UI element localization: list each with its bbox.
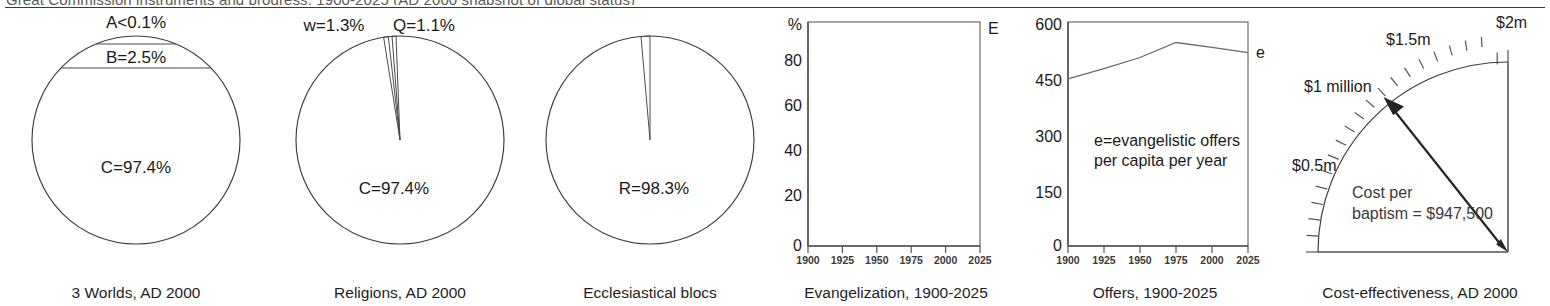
slice-label-c: C=97.4% — [101, 158, 171, 177]
gauge-annotation-line1: Cost per — [1352, 184, 1413, 201]
y-tick-label-300: 300 — [1035, 128, 1062, 145]
y-tick-label-600: 600 — [1035, 16, 1062, 33]
x-tick-label-1900: 1900 — [1056, 254, 1080, 266]
y-tick-label-0: 0 — [793, 237, 802, 254]
legend-note-line1: e=evangelistic offers — [1094, 132, 1240, 149]
x-tick-label-2000: 2000 — [934, 254, 958, 266]
y-axis-unit-label: % — [788, 16, 802, 33]
series-label-e: e — [1256, 44, 1265, 61]
gauge-annotation-line2: baptism = $947,500 — [1352, 205, 1493, 222]
y-tick-label-0: 0 — [1053, 237, 1062, 254]
pie-ecclesiastical: R=98.3% — [528, 8, 772, 274]
panel-caption-religions: Religions, AD 2000 — [272, 284, 528, 302]
slice-label-q: Q=1.1% — [393, 16, 455, 35]
panel-religions: w=1.3% Q=1.1% C=97.4% Religions, AD 2000 — [272, 8, 528, 306]
series-label-E: E — [988, 20, 999, 37]
y-tick-label-80: 80 — [784, 52, 802, 69]
gauge-cost-effectiveness: $0.5m $1 million $1.5m $2m Cost per bapt… — [1290, 8, 1550, 274]
panel-caption-evangelization: Evangelization, 1900-2025 — [772, 284, 1020, 302]
x-tick-label-1900: 1900 — [796, 254, 820, 266]
panel-cost-effectiveness: $0.5m $1 million $1.5m $2m Cost per bapt… — [1290, 8, 1550, 306]
slice-label-a: A<0.1% — [106, 13, 166, 32]
slice-label-c: C=97.4% — [359, 179, 429, 198]
legend-note-line2: per capita per year — [1094, 152, 1228, 169]
x-tick-marks — [808, 246, 980, 253]
x-tick-label-1925: 1925 — [831, 254, 855, 266]
x-tick-label-2025: 2025 — [968, 254, 992, 266]
panel-evangelization: % 80 60 40 20 0 E 1900 1925 1950 1975 20… — [772, 8, 1020, 306]
wedge-other — [641, 36, 650, 140]
x-tick-label-1925: 1925 — [1092, 254, 1116, 266]
y-tick-label-450: 450 — [1035, 72, 1062, 89]
panel-caption-ecclesiastical-blocs: Ecclesiastical blocs — [528, 284, 772, 302]
series-line-e — [1068, 43, 1248, 79]
wedge-q — [392, 36, 400, 140]
y-tick-label-60: 60 — [784, 97, 802, 114]
figure-root: Great Commission instruments and progres… — [0, 0, 1550, 306]
slice-label-w: w=1.3% — [303, 16, 365, 35]
x-tick-label-2000: 2000 — [1200, 254, 1224, 266]
panel-caption-offers: Offers, 1900-2025 — [1020, 284, 1290, 302]
panel-offers: 600 450 300 150 0 e e=evangelistic offer… — [1020, 8, 1290, 306]
panel-three-worlds: A<0.1% B=2.5% C=97.4% 3 Worlds, AD 2000 — [0, 8, 272, 306]
x-tick-label-1975: 1975 — [1164, 254, 1188, 266]
slice-label-r: R=98.3% — [619, 179, 689, 198]
x-tick-marks — [1068, 246, 1248, 253]
pie-religions: w=1.3% Q=1.1% C=97.4% — [272, 8, 528, 274]
panel-caption-three-worlds: 3 Worlds, AD 2000 — [0, 284, 272, 302]
chart-evangelization: % 80 60 40 20 0 E 1900 1925 1950 1975 20… — [772, 8, 1020, 274]
plot-area — [808, 22, 980, 246]
panel-ecclesiastical-blocs: R=98.3% Ecclesiastical blocs — [528, 8, 772, 306]
x-tick-label-1950: 1950 — [865, 254, 889, 266]
gauge-label-1-5m: $1.5m — [1386, 31, 1430, 48]
y-tick-label-20: 20 — [784, 187, 802, 204]
gauge-pointer — [1384, 97, 1509, 252]
x-tick-label-2025: 2025 — [1236, 254, 1260, 266]
pie-three-worlds: A<0.1% B=2.5% C=97.4% — [0, 8, 272, 274]
pie-outline — [32, 36, 240, 244]
panel-caption-cost-effectiveness: Cost-effectiveness, AD 2000 — [1290, 284, 1550, 302]
gauge-label-1-million: $1 million — [1304, 78, 1372, 95]
gauge-label-0-5m: $0.5m — [1292, 157, 1336, 174]
x-tick-label-1950: 1950 — [1128, 254, 1152, 266]
chart-offers: 600 450 300 150 0 e e=evangelistic offer… — [1020, 8, 1290, 274]
slice-label-b: B=2.5% — [106, 48, 166, 67]
gauge-label-2m: $2m — [1496, 14, 1527, 31]
x-tick-label-1975: 1975 — [900, 254, 924, 266]
y-tick-label-150: 150 — [1035, 184, 1062, 201]
y-tick-label-40: 40 — [784, 142, 802, 159]
clipped-figure-title: Great Commission instruments and progres… — [6, 0, 1546, 5]
